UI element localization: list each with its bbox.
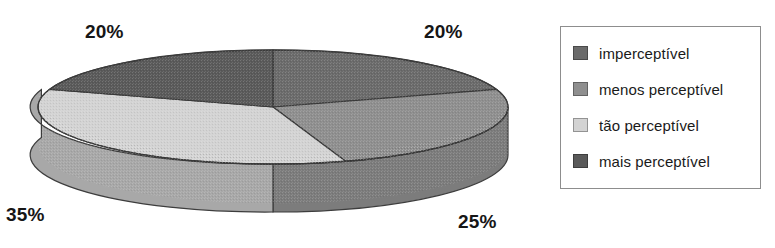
data-label-mais: 20% <box>85 22 124 41</box>
legend-swatch-menos <box>573 82 588 96</box>
chart-legend: imperceptível menos perceptível tão perc… <box>560 26 761 189</box>
data-label-imperceptivel: 20% <box>424 22 463 41</box>
legend-item-mais: mais perceptível <box>573 143 760 179</box>
data-label-tao: 35% <box>6 205 45 224</box>
legend-label-menos: menos perceptível <box>599 81 723 98</box>
legend-item-menos: menos perceptível <box>573 71 760 107</box>
legend-item-tao: tão perceptível <box>573 107 760 143</box>
legend-label-imperceptivel: imperceptível <box>599 45 690 62</box>
legend-swatch-imperceptivel <box>573 46 588 60</box>
pie-dither-overlay <box>38 50 508 204</box>
pie-chart-figure: 20% 20% 35% 25% imperceptível menos perc… <box>0 0 775 248</box>
legend-swatch-tao <box>573 118 588 132</box>
legend-item-imperceptivel: imperceptível <box>573 35 760 71</box>
legend-label-tao: tão perceptível <box>599 117 699 134</box>
data-label-menos: 25% <box>458 212 497 231</box>
legend-swatch-mais <box>573 154 588 168</box>
pie-plot-area: 20% 20% 35% 25% <box>0 0 560 248</box>
legend-label-mais: mais perceptível <box>599 153 710 170</box>
